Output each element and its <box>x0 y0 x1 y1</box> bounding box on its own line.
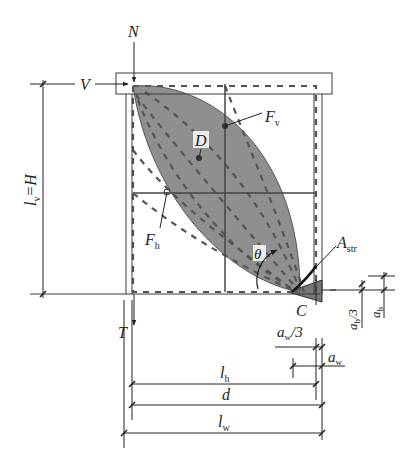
label-V: V <box>80 76 92 93</box>
label-ab-third: ab/3 <box>345 308 362 330</box>
label-lw: lw <box>218 413 230 433</box>
label-D: D <box>194 132 207 149</box>
label-d: d <box>222 386 231 403</box>
label-aw: aw <box>328 349 343 367</box>
label-Fv: Fv <box>264 108 280 128</box>
node-D <box>196 155 202 161</box>
label-lh: lh <box>220 364 229 384</box>
label-lv-H: lv=H <box>22 173 42 206</box>
force-arrows <box>95 42 134 325</box>
label-aw-third: aw/3 <box>277 324 303 342</box>
strut-tie-diagram: N V T D Fv Fh θ Astr C ab/3 ab <box>0 0 409 464</box>
label-Astr: Astr <box>336 234 357 254</box>
label-ab: ab <box>368 307 385 319</box>
label-N: N <box>127 23 140 40</box>
label-C: C <box>296 302 307 319</box>
label-theta: θ <box>254 246 262 262</box>
label-T: T <box>118 324 128 341</box>
dim-ab <box>330 272 395 328</box>
label-Fh: Fh <box>144 231 160 251</box>
